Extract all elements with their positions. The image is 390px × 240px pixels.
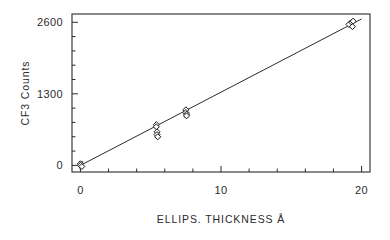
- x-axis-title: ELLIPS. THICKNESS Å: [157, 213, 285, 225]
- scatter-plot-svg: 013002600 01020 ELLIPS. THICKNESS Å CF3 …: [0, 0, 390, 240]
- x-tick-label-2: 20: [355, 184, 368, 196]
- x-tick-label-1: 10: [214, 184, 227, 196]
- y-tick-label-1: 1300: [37, 88, 63, 100]
- plot-background: [0, 0, 390, 240]
- y-axis-title: CF3 Counts: [19, 60, 31, 125]
- x-tick-label-0: 0: [77, 184, 84, 196]
- chart-figure: 013002600 01020 ELLIPS. THICKNESS Å CF3 …: [0, 0, 390, 240]
- y-tick-label-2: 2600: [37, 16, 63, 28]
- y-tick-label-0: 0: [56, 159, 63, 171]
